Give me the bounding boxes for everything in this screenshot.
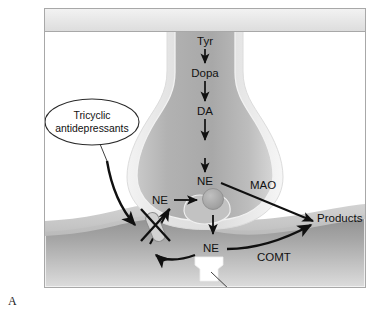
label-tricyclic-line1: Tricyclic — [73, 110, 110, 121]
panel-title-bar — [45, 9, 365, 32]
callout-ellipse — [45, 99, 139, 145]
norepinephrine-terminal-diagram: Tyr Dopa DA NE MAO NE NE — [45, 9, 365, 287]
tricyclic-antidepressants-callout: Tricyclic antidepressants — [45, 99, 139, 225]
label-ne-recaptured: NE — [152, 194, 168, 206]
label-ne-cytosol: NE — [197, 175, 213, 187]
label-tricyclic-line2: antidepressants — [55, 123, 128, 134]
synaptic-vesicle — [203, 189, 224, 210]
label-mao: MAO — [250, 179, 276, 191]
label-dopamine: DA — [197, 105, 213, 117]
figure-root: Tyr Dopa DA NE MAO NE NE — [0, 0, 372, 317]
label-products: Products — [317, 212, 363, 224]
label-dopa: Dopa — [191, 67, 219, 79]
label-adrenergic-receptors: α and β adrenergic receptors — [247, 285, 365, 287]
callout-leader-line — [100, 144, 107, 161]
panel-letter: A — [8, 294, 17, 309]
figure-panel-frame: Tyr Dopa DA NE MAO NE NE — [44, 8, 366, 288]
label-comt: COMT — [257, 251, 291, 263]
label-tyrosine: Tyr — [197, 35, 213, 47]
label-ne-cleft: NE — [203, 242, 219, 254]
